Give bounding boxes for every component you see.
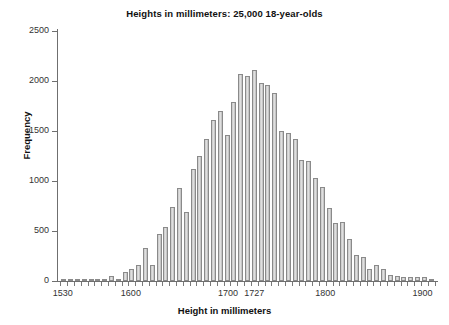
x-tick-label: 1530 (38, 289, 88, 298)
y-tick-label: 0 (9, 276, 49, 285)
x-axis-title: Height in millimeters (0, 305, 449, 316)
x-tick (387, 282, 388, 286)
histogram-bar (170, 207, 175, 282)
y-tick-label: 500 (9, 226, 49, 235)
x-tick (292, 282, 293, 286)
y-tick (52, 31, 57, 32)
histogram-bar (143, 248, 148, 281)
histogram-bar (293, 139, 298, 282)
histogram-bar (327, 208, 332, 281)
histogram-bar (313, 178, 318, 281)
x-tick (346, 282, 347, 286)
x-tick (60, 282, 61, 286)
histogram-bar (361, 257, 366, 281)
x-tick (88, 282, 89, 286)
x-tick (74, 282, 75, 286)
x-tick (210, 282, 211, 286)
x-tick (326, 282, 327, 286)
histogram-bar (306, 161, 311, 282)
y-tick-label: 2500 (9, 26, 49, 35)
x-tick (353, 282, 354, 286)
y-tick (52, 181, 57, 182)
histogram-bar (401, 277, 406, 282)
x-tick (162, 282, 163, 286)
x-tick (108, 282, 109, 286)
x-tick (428, 282, 429, 286)
histogram-bar (415, 277, 420, 282)
histogram-bar (177, 188, 182, 282)
histogram-bar (123, 272, 128, 281)
plot-area (58, 31, 437, 281)
histogram-bar (374, 265, 379, 281)
x-tick (230, 282, 231, 286)
x-tick (135, 282, 136, 286)
y-tick (52, 131, 57, 132)
histogram-bar (265, 85, 270, 282)
histogram-bar (429, 279, 434, 282)
histogram-bar (388, 275, 393, 281)
histogram-bar (245, 76, 250, 281)
histogram-bar (109, 276, 114, 282)
x-tick-label: 1900 (397, 289, 447, 298)
x-tick (421, 282, 422, 286)
histogram-bar (68, 279, 73, 281)
x-tick (435, 282, 436, 286)
histogram-bar (82, 279, 87, 281)
x-tick (373, 282, 374, 286)
histogram-bar (61, 279, 66, 281)
histogram-bar (252, 70, 257, 281)
x-tick (333, 282, 334, 286)
x-tick (244, 282, 245, 286)
histogram-bar (340, 222, 345, 281)
x-tick (299, 282, 300, 286)
x-tick (81, 282, 82, 286)
x-tick (394, 282, 395, 286)
histogram-bar (408, 277, 413, 282)
x-tick-label: 1800 (300, 289, 350, 298)
histogram-bar (231, 102, 236, 281)
x-tick (312, 282, 313, 286)
x-tick (237, 282, 238, 286)
x-tick (258, 282, 259, 286)
histogram-bar (129, 269, 134, 281)
y-tick (52, 231, 57, 232)
histogram-bar (238, 74, 243, 282)
histogram-bar (95, 279, 100, 281)
y-tick-label: 2000 (9, 76, 49, 85)
histogram-bar (218, 111, 223, 281)
histogram-bar (422, 277, 427, 281)
x-tick-label: 1727 (229, 289, 279, 298)
x-tick (142, 282, 143, 286)
x-tick (414, 282, 415, 286)
x-tick-label: 1600 (106, 289, 156, 298)
x-tick (401, 282, 402, 286)
x-tick (319, 282, 320, 286)
x-tick (278, 282, 279, 286)
chart-title: Heights in millimeters: 25,000 18-year-o… (0, 8, 449, 19)
x-tick (122, 282, 123, 286)
x-tick (183, 282, 184, 286)
histogram-bar (157, 234, 162, 281)
histogram-bar (259, 83, 264, 281)
x-tick (251, 282, 252, 286)
histogram-bar (367, 269, 372, 281)
x-tick (265, 282, 266, 286)
y-tick (52, 281, 57, 282)
histogram-bar (184, 212, 189, 281)
y-tick (52, 81, 57, 82)
y-tick-label: 1500 (9, 126, 49, 135)
histogram-bar (102, 279, 107, 282)
histogram-bar (395, 276, 400, 282)
x-tick (203, 282, 204, 286)
histogram-bar (354, 255, 359, 282)
x-tick (305, 282, 306, 286)
histogram-bar (381, 269, 386, 281)
histogram-bar (347, 239, 352, 281)
x-tick (367, 282, 368, 286)
x-tick (380, 282, 381, 286)
x-tick (271, 282, 272, 286)
histogram-bar (299, 160, 304, 281)
x-tick (128, 282, 129, 286)
histogram-bar (116, 279, 121, 281)
x-tick (217, 282, 218, 286)
